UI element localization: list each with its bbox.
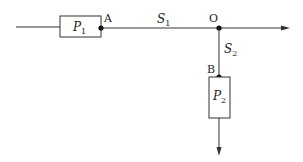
segment-s2-label: S2 — [224, 42, 237, 58]
diagram-canvas: P1 A S1 O S2 B P2 — [0, 0, 303, 162]
node-o-label: O — [209, 12, 218, 25]
node-b-label: B — [207, 63, 215, 76]
arrow-right-icon — [281, 26, 290, 31]
node-a-label: A — [103, 12, 113, 25]
segment-s1-label: S1 — [157, 12, 170, 28]
arrow-down-icon — [217, 147, 222, 156]
